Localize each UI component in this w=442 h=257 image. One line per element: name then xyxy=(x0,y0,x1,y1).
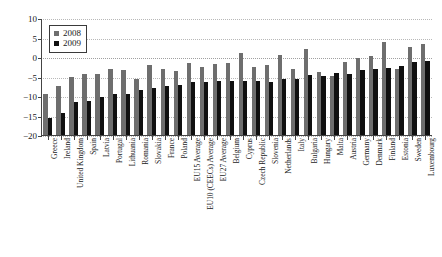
bar-2009 xyxy=(269,82,273,136)
y-axis-tick-label: −15 xyxy=(23,112,37,121)
y-axis: 1050−5−10−15−20 xyxy=(41,19,42,136)
bar-2009 xyxy=(295,79,299,136)
y-axis-tick-label: 0 xyxy=(33,54,38,63)
y-axis-tick xyxy=(38,97,42,98)
bar-2009 xyxy=(308,75,312,136)
x-axis-tick-label: Estonia xyxy=(402,138,409,160)
bar-2009 xyxy=(217,81,221,136)
bar-2009 xyxy=(126,94,130,137)
bar-2009 xyxy=(139,90,143,136)
bar-2009 xyxy=(360,70,364,136)
legend-label-2008: 2008 xyxy=(63,29,81,38)
bars-layer xyxy=(41,19,432,136)
bar-group xyxy=(161,19,170,136)
legend-item-2008: 2008 xyxy=(54,29,81,38)
y-axis-tick-label: −5 xyxy=(27,73,37,82)
bar-2009 xyxy=(256,81,260,136)
x-axis-tick-label: Spain xyxy=(90,138,97,155)
x-axis-tick-label: Malta xyxy=(337,138,344,155)
bar-2009 xyxy=(113,94,117,137)
x-axis-tick-label: France xyxy=(168,138,175,158)
bar-group xyxy=(187,19,196,136)
y-axis-tick-label: −20 xyxy=(23,132,37,141)
bar-group xyxy=(226,19,235,136)
x-axis-tick-label: Czech Republic xyxy=(259,138,266,185)
bar-group xyxy=(134,19,143,136)
bar-group xyxy=(356,19,365,136)
chart-legend: 2008 2009 xyxy=(49,25,87,53)
x-axis-tick-label: Cyprus xyxy=(246,138,253,159)
y-axis-tick xyxy=(38,19,42,20)
bar-2009 xyxy=(373,69,377,136)
bar-group xyxy=(291,19,300,136)
bar-2009 xyxy=(165,86,169,136)
x-axis-tick-label: Germany xyxy=(363,138,370,166)
bar-2009 xyxy=(152,88,156,136)
x-axis-tick-label: Portugal xyxy=(116,138,123,163)
x-axis-tick-label: EU10 (CEECs) Average xyxy=(207,138,214,210)
y-axis-tick xyxy=(38,58,42,59)
bar-2009 xyxy=(399,66,403,136)
legend-swatch-icon-2008 xyxy=(54,31,59,36)
plot-area: 1050−5−10−15−20 xyxy=(41,19,432,136)
bar-2009 xyxy=(204,82,208,136)
bar-group xyxy=(343,19,352,136)
bar-group xyxy=(304,19,313,136)
x-axis-tick-label: EU27 Average xyxy=(220,138,227,181)
bar-2009 xyxy=(178,85,182,136)
legend-swatch-icon-2009 xyxy=(54,41,59,46)
bar-group xyxy=(408,19,417,136)
bar-2009 xyxy=(412,62,416,136)
bar-group xyxy=(382,19,391,136)
bar-group xyxy=(421,19,430,136)
bar-group xyxy=(147,19,156,136)
x-axis-tick-label: Bulgaria xyxy=(311,138,318,163)
x-axis-tick-label: Sweden xyxy=(415,138,422,161)
bar-2009 xyxy=(386,68,390,136)
bar-2009 xyxy=(282,79,286,136)
bar-group xyxy=(369,19,378,136)
bar-group xyxy=(108,19,117,136)
x-axis-tick-label: Slovakia xyxy=(155,138,162,164)
y-axis-tick xyxy=(38,39,42,40)
x-axis-tick-label: Lithuania xyxy=(129,138,136,166)
bar-2009 xyxy=(61,113,65,136)
bar-group xyxy=(252,19,261,136)
bar-2009 xyxy=(230,81,234,136)
bar-2009 xyxy=(334,73,338,136)
x-axis-tick-label: Poland xyxy=(181,138,188,159)
y-axis-tick xyxy=(38,78,42,79)
x-axis-tick-label: EU15 Average xyxy=(194,138,201,181)
legend-item-2009: 2009 xyxy=(54,39,81,48)
x-axis-tick-label: United Kingdom xyxy=(77,138,84,188)
x-axis-tick-label: Netherlands xyxy=(285,138,292,174)
x-axis-tick-label: Belgium xyxy=(233,138,240,163)
x-axis-tick-label: Italy xyxy=(298,138,305,152)
bar-group xyxy=(121,19,130,136)
x-axis-tick-label: Luxembourg xyxy=(428,138,435,176)
x-axis-tick-label: Hungary xyxy=(324,138,331,164)
bar-chart: 1050−5−10−15−20 2008 2009 GreeceIrelandU… xyxy=(0,0,442,257)
y-axis-tick-label: 10 xyxy=(28,15,37,24)
x-axis-tick-label: Slovenia xyxy=(272,138,279,164)
bar-group xyxy=(317,19,326,136)
bar-group xyxy=(213,19,222,136)
x-axis-tick-label: Denmark xyxy=(376,138,383,166)
bar-group xyxy=(278,19,287,136)
x-axis-tick-label: Romania xyxy=(142,138,149,165)
bar-2009 xyxy=(243,81,247,136)
bar-2009 xyxy=(87,101,91,136)
y-axis-tick xyxy=(38,117,42,118)
bar-2009 xyxy=(347,74,351,136)
bar-2009 xyxy=(100,97,104,136)
x-axis-tick-label: Latvia xyxy=(103,138,110,157)
x-axis-tick-labels: GreeceIrelandUnited KingdomSpainLatviaPo… xyxy=(41,138,432,256)
x-axis-tick-label: Ireland xyxy=(64,138,71,159)
y-axis-tick-label: −10 xyxy=(23,93,37,102)
y-axis-tick xyxy=(38,136,42,137)
bar-group xyxy=(200,19,209,136)
bar-2009 xyxy=(425,61,429,136)
bar-group xyxy=(265,19,274,136)
bar-2009 xyxy=(74,102,78,136)
y-axis-tick-label: 5 xyxy=(33,34,38,43)
